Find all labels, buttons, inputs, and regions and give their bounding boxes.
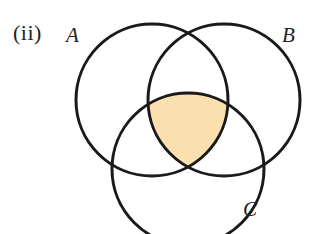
venn-diagram-figure: (ii) A B C <box>0 0 312 234</box>
set-label-c: C <box>243 199 257 220</box>
part-label: (ii) <box>13 22 42 44</box>
set-label-a: A <box>66 25 79 46</box>
venn-diagram-canvas <box>0 0 312 234</box>
set-label-b: B <box>282 25 295 46</box>
